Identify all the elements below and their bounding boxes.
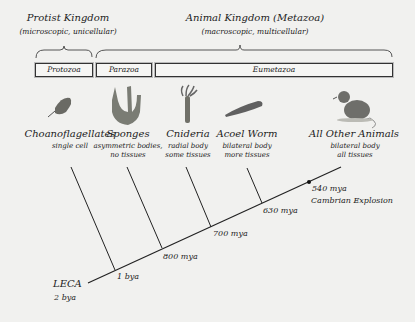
cambrian-node-dot <box>307 180 311 184</box>
branch-acoel-worm <box>247 168 262 203</box>
taxon-name-all-other-animals: All Other Animals <box>306 128 402 139</box>
group-box-parazoa: Parazoa <box>96 63 152 77</box>
taxon-desc-cnideria-1: radial body <box>160 142 216 151</box>
branch-cnideria <box>186 167 211 227</box>
cambrian-age: 540 mya <box>312 184 347 193</box>
node-800-mya: 800 mya <box>163 252 198 261</box>
main-lineage-line <box>88 167 341 283</box>
leca-label: LECA <box>53 278 82 289</box>
choanoflagellate-icon <box>48 98 71 117</box>
branch-sponges <box>127 167 162 248</box>
group-box-protozoa: Protozoa <box>35 63 93 77</box>
phylogenetic-tree <box>0 0 415 322</box>
cnidarian-icon <box>182 85 198 123</box>
rat-icon <box>333 91 376 128</box>
taxon-desc-all-other-animals-1: bilateral body <box>310 142 400 151</box>
cambrian-label: Cambrian Explosion <box>311 196 393 205</box>
taxon-desc-all-other-animals-2: all tissues <box>310 151 400 160</box>
taxon-name-sponges: Sponges <box>96 128 160 139</box>
taxon-desc-acoel-worm-1: bilateral body <box>214 142 280 151</box>
sponge-icon <box>112 86 141 125</box>
taxon-desc-acoel-worm-2: more tissues <box>214 151 280 160</box>
branch-choanoflagellates <box>71 167 115 270</box>
taxon-name-acoel-worm: Acoel Worm <box>214 128 280 139</box>
taxon-desc-cnideria-2: some tissues <box>160 151 216 160</box>
protist-brace <box>36 46 92 58</box>
node-1-bya: 1 bya <box>117 272 139 281</box>
leca-age: 2 bya <box>54 293 76 302</box>
taxon-name-cnideria: Cnideria <box>160 128 216 139</box>
node-630-mya: 630 mya <box>263 206 298 215</box>
taxon-desc-sponges-2: no tissues <box>92 151 164 160</box>
acoel-worm-icon <box>225 101 263 117</box>
taxon-desc-sponges-1: asymmetric bodies, <box>92 142 164 151</box>
animal-brace <box>96 45 392 58</box>
group-box-eumetazoa: Eumetazoa <box>155 63 393 77</box>
node-700-mya: 700 mya <box>213 229 248 238</box>
